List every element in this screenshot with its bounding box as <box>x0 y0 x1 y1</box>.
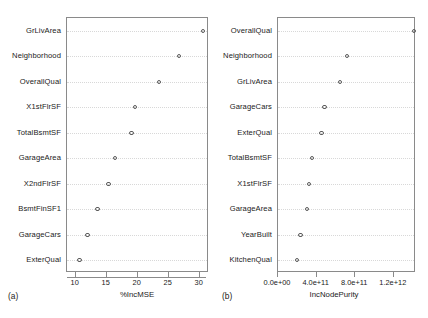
y-axis-category-label: Neighborhood <box>12 52 61 60</box>
data-point-marker <box>307 182 311 186</box>
x-axis-tick-label: 15 <box>102 279 110 286</box>
guide-line <box>278 107 414 108</box>
x-axis-title-b: IncNodePurity <box>310 291 359 299</box>
x-axis-tick <box>393 272 394 277</box>
data-point-marker <box>345 54 349 58</box>
data-point-marker <box>129 131 133 135</box>
y-axis-category-label: X1stFlrSF <box>237 180 272 188</box>
guide-line <box>278 184 414 185</box>
panel-tag-b: (b) <box>222 292 232 300</box>
y-axis-category-label: KitchenQual <box>230 256 272 264</box>
x-axis-tick <box>106 272 107 277</box>
x-axis-tick <box>199 272 200 277</box>
y-axis-category-label: Neighborhood <box>223 52 272 60</box>
y-axis-category-label: GrLivArea <box>26 27 61 35</box>
x-axis-tick-label: 10 <box>71 279 79 286</box>
data-point-marker <box>305 207 309 211</box>
guide-line <box>278 31 414 32</box>
x-axis-tick-label: 0.0e+00 <box>264 279 291 286</box>
data-point-marker <box>106 182 110 186</box>
data-point-marker <box>177 54 181 58</box>
x-axis-tick-label: 1.2e+12 <box>379 279 406 286</box>
data-point-marker <box>412 29 416 33</box>
panel-a: GrLivAreaNeighborhoodOverallQualX1stFlrS… <box>0 0 214 318</box>
guide-line <box>67 56 207 57</box>
panel-tag-a: (a) <box>8 292 18 300</box>
data-point-marker <box>295 258 299 262</box>
x-axis-tick-label: 25 <box>164 279 172 286</box>
guide-line <box>278 133 414 134</box>
x-axis-tick <box>316 272 317 277</box>
guide-line <box>278 82 414 83</box>
y-axis-category-label: X2ndFlrSF <box>24 180 61 188</box>
data-point-marker <box>298 233 302 237</box>
y-axis-category-label: OverallQual <box>20 78 61 86</box>
x-axis-tick <box>137 272 138 277</box>
data-point-marker <box>95 207 99 211</box>
y-axis-category-label: GarageArea <box>19 154 61 162</box>
x-axis-tick <box>277 272 278 277</box>
guide-line <box>67 209 207 210</box>
x-axis-tick-label: 8.0e+11 <box>341 279 367 286</box>
y-axis-category-label: GarageArea <box>230 205 272 213</box>
y-axis-category-label: X1stFlrSF <box>26 103 61 111</box>
guide-line <box>67 184 207 185</box>
y-axis-category-label: TotalBsmtSF <box>228 154 272 162</box>
y-axis-category-label: TotalBsmtSF <box>17 129 61 137</box>
data-point-marker <box>113 156 117 160</box>
y-axis-category-label: YearBuilt <box>241 231 272 239</box>
x-axis-tick-label: 30 <box>195 279 203 286</box>
y-axis-category-label: GarageCars <box>230 103 272 111</box>
data-point-marker <box>157 80 161 84</box>
x-axis-tick-label: 4.0e+11 <box>302 279 328 286</box>
y-axis-category-label: ExterQual <box>26 256 61 264</box>
guide-line <box>278 209 414 210</box>
x-axis-title-a: %IncMSE <box>120 291 154 299</box>
y-axis-category-label: ExterQual <box>237 129 272 137</box>
guide-line <box>278 158 414 159</box>
plot-area-b: OverallQualNeighborhoodGrLivAreaGarageCa… <box>277 17 415 272</box>
y-axis-category-label: GarageCars <box>19 231 61 239</box>
guide-line <box>67 107 207 108</box>
x-axis-tick-label: 20 <box>133 279 141 286</box>
y-axis-category-label: GrLivArea <box>237 78 272 86</box>
x-axis-tick <box>354 272 355 277</box>
random-forest-variable-importance-figure: GrLivAreaNeighborhoodOverallQualX1stFlrS… <box>0 0 428 318</box>
data-point-marker <box>133 105 137 109</box>
x-axis-tick <box>168 272 169 277</box>
data-point-marker <box>85 233 89 237</box>
data-point-marker <box>77 258 81 262</box>
y-axis-category-label: OverallQual <box>231 27 272 35</box>
panel-b: OverallQualNeighborhoodGrLivAreaGarageCa… <box>214 0 428 318</box>
data-point-marker <box>338 80 342 84</box>
data-point-marker <box>322 105 326 109</box>
guide-line <box>67 82 207 83</box>
data-point-marker <box>310 156 314 160</box>
x-axis-tick <box>75 272 76 277</box>
guide-line <box>67 31 207 32</box>
guide-line <box>67 260 207 261</box>
y-axis-category-label: BsmtFinSF1 <box>18 205 61 213</box>
data-point-marker <box>201 29 205 33</box>
guide-line <box>67 158 207 159</box>
plot-area-a: GrLivAreaNeighborhoodOverallQualX1stFlrS… <box>66 17 208 272</box>
guide-line <box>67 133 207 134</box>
data-point-marker <box>319 131 323 135</box>
